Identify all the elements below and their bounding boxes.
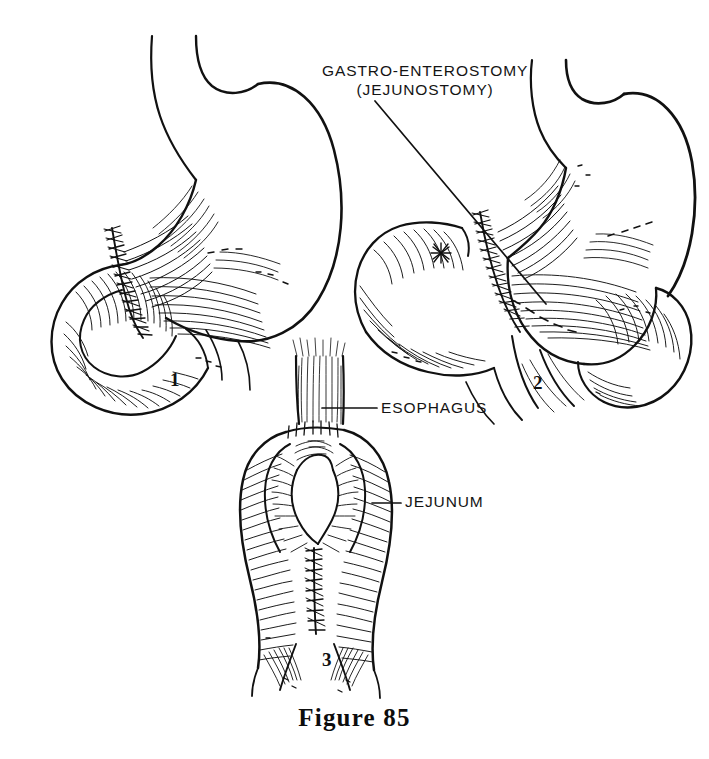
panel-2-drawing (355, 60, 695, 424)
figure-caption: Figure 85 (0, 704, 709, 732)
panel-number-3: 3 (322, 650, 332, 669)
label-gastro-enterostomy: GASTRO-ENTEROSTOMY (JEJUNOSTOMY) (322, 62, 528, 100)
label-jejunum: JEJUNUM (405, 493, 484, 512)
surgical-illustration (0, 0, 709, 759)
label-gastro-enterostomy-line1: GASTRO-ENTEROSTOMY (322, 62, 528, 79)
panel-1-drawing (52, 36, 342, 415)
figure-plate: GASTRO-ENTEROSTOMY (JEJUNOSTOMY) ESOPHAG… (0, 0, 709, 759)
label-esophagus: ESOPHAGUS (381, 399, 487, 418)
label-gastro-enterostomy-line2: (JEJUNOSTOMY) (322, 81, 528, 100)
panel-3-drawing (240, 338, 392, 698)
panel-number-2: 2 (533, 373, 543, 392)
gastro-enterostomy-leader-line (375, 101, 546, 304)
panel-number-1: 1 (170, 370, 180, 389)
